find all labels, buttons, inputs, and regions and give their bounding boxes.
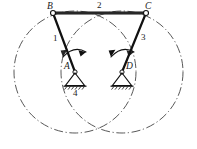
joint-label-d: D	[126, 62, 133, 72]
linkage-svg-canvas	[0, 0, 197, 149]
joint-label-a: A	[64, 62, 70, 72]
fixed-pivot-d	[111, 70, 134, 90]
rotation-arrow-3-icon	[109, 49, 134, 57]
link-label-3: 3	[141, 33, 146, 42]
ground-hatch-d	[112, 86, 132, 89]
joint-label-b: B	[47, 2, 53, 12]
rotation-arrow-1-icon	[61, 49, 86, 57]
joint-label-c: C	[145, 2, 151, 12]
fixed-pivot-a	[64, 70, 87, 90]
link-label-1: 1	[53, 34, 58, 43]
crank-path-circles	[14, 11, 183, 133]
link-label-2: 2	[97, 1, 102, 10]
linkage-diagram: B C A D 1 2 3 4	[0, 0, 197, 149]
link-label-4: 4	[73, 89, 78, 98]
